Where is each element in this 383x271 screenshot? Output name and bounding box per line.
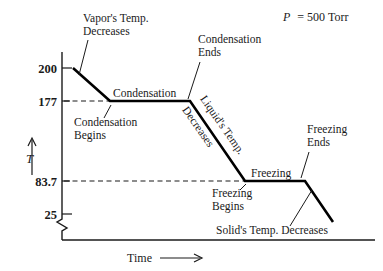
annotation-freezing-begins-line2: Begins bbox=[212, 200, 244, 213]
pressure-condition-note: P = 500 Torr bbox=[282, 10, 348, 24]
annotation-vapor-temp-decreases-line1: Vapor's Temp. bbox=[83, 12, 149, 25]
y-axis-title-group: T bbox=[26, 138, 36, 175]
annotation-condensation-ends-line1: Condensation bbox=[198, 33, 261, 45]
pressure-value: = 500 Torr bbox=[297, 10, 348, 24]
annotation-condensation-ends: Condensation Ends bbox=[188, 33, 261, 99]
annotation-freezing-plateau: Freezing bbox=[251, 167, 291, 180]
annotation-condensation-begins-line1: Condensation bbox=[74, 116, 137, 128]
annotation-vapor-temp-decreases-line2: Decreases bbox=[83, 25, 130, 37]
cooling-curve-chart: 200 177 83.7 25 T Time P = 500 Torr bbox=[0, 0, 383, 271]
annotation-condensation-begins-line2: Begins bbox=[74, 129, 106, 142]
annotation-freezing-ends-line1: Freezing bbox=[307, 123, 347, 136]
y-tick-label-25: 25 bbox=[45, 208, 58, 222]
y-tick-label-177: 177 bbox=[38, 95, 57, 109]
y-axis-title: T bbox=[26, 151, 34, 166]
y-tick-label-83-7: 83.7 bbox=[35, 175, 57, 189]
cooling-curve-path bbox=[73, 68, 333, 222]
cooling-curve-figure: 200 177 83.7 25 T Time P = 500 Torr bbox=[0, 0, 383, 271]
y-ticks-group bbox=[62, 68, 72, 214]
y-tick-labels-group: 200 177 83.7 25 bbox=[35, 62, 57, 222]
annotation-solids-temp-decreases-label: Solid's Temp. Decreases bbox=[216, 224, 328, 237]
annotation-condensation-begins: Condensation Begins bbox=[74, 105, 137, 142]
x-axis-title-group: Time bbox=[127, 251, 202, 265]
annotation-vapor-temp-decreases: Vapor's Temp. Decreases bbox=[79, 12, 149, 75]
annotation-freezing-ends: Freezing Ends bbox=[301, 123, 347, 178]
annotation-freezing-begins-line1: Freezing bbox=[212, 187, 252, 200]
annotation-condensation-ends-line2: Ends bbox=[198, 46, 222, 58]
annotation-freezing-begins: Freezing Begins bbox=[212, 184, 252, 213]
leader-line-vapor-temp-decreases bbox=[79, 40, 88, 75]
annotation-liquids-temp-decreases: Liquid's Temp. Decreases bbox=[180, 93, 247, 157]
y-tick-label-200: 200 bbox=[38, 62, 57, 76]
leader-line-freezing-ends bbox=[301, 152, 309, 178]
y-axis-break-symbol bbox=[57, 215, 67, 240]
annotation-freezing-ends-line2: Ends bbox=[307, 136, 331, 148]
annotation-condensation-plateau: Condensation bbox=[113, 87, 176, 99]
x-axis-title: Time bbox=[127, 251, 152, 265]
leader-line-solids-temp-decreases bbox=[290, 190, 312, 226]
pressure-symbol: P bbox=[282, 10, 291, 24]
leader-line-condensation-ends bbox=[188, 62, 200, 99]
